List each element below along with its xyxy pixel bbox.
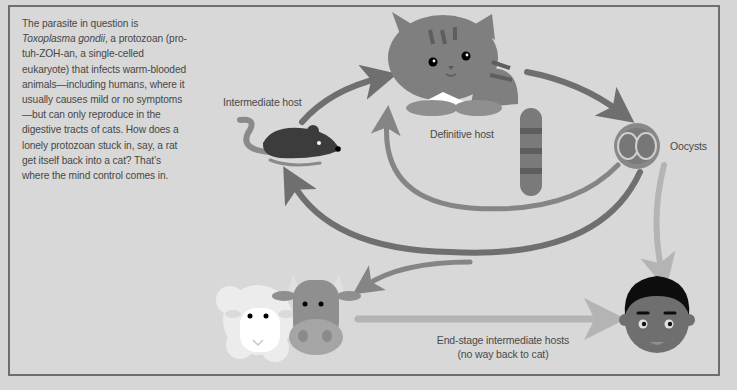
arrow-rat-to-cat [302, 78, 380, 122]
arrow-oocysts-to-cat [386, 120, 618, 209]
label-end-stage-line2: (no way back to cat) [403, 347, 603, 361]
label-definitive-host: Definitive host [430, 128, 494, 140]
lifecycle-diagram [0, 0, 737, 390]
label-oocysts: Oocysts [670, 140, 707, 152]
arrow-oocysts-to-rat [292, 172, 640, 253]
label-end-stage-line1: End-stage intermediate hosts [403, 333, 603, 347]
label-intermediate-host: Intermediate host [223, 96, 302, 108]
arrow-oocysts-to-livestock [365, 262, 470, 286]
arrow-cat-to-oocysts [527, 72, 620, 112]
oocyst-icon [614, 123, 660, 169]
arrow-oocysts-to-human [656, 165, 664, 272]
label-end-stage-hosts: End-stage intermediate hosts (no way bac… [403, 333, 603, 361]
cat-icon [388, 12, 542, 196]
rat-icon [240, 120, 341, 165]
human-icon [619, 276, 695, 353]
